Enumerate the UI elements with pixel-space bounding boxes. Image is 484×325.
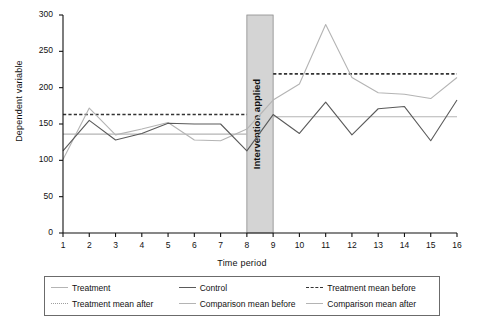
x-tick-label: 2 — [79, 240, 99, 250]
legend-item: Comparison mean after — [306, 299, 434, 309]
legend-item: Treatment mean before — [306, 283, 434, 293]
y-tick-label: 0 — [23, 227, 53, 237]
y-tick-label: 100 — [23, 154, 53, 164]
y-axis-title: Dependent variable — [14, 46, 24, 156]
legend-item: Treatment mean after — [51, 299, 179, 309]
legend-label: Control — [200, 283, 227, 293]
x-tick-label: 7 — [211, 240, 231, 250]
legend-label: Treatment — [72, 283, 110, 293]
y-tick-label: 200 — [23, 82, 53, 92]
y-tick-label: 250 — [23, 45, 53, 55]
legend-label: Treatment mean before — [327, 283, 416, 293]
x-tick-label: 5 — [158, 240, 178, 250]
x-axis-title: Time period — [0, 258, 484, 268]
intervention-band-label: Intervention applied — [251, 79, 262, 169]
x-tick-label: 9 — [263, 240, 283, 250]
x-tick-label: 1 — [53, 240, 73, 250]
x-tick-label: 11 — [316, 240, 336, 250]
x-tick-label: 8 — [237, 240, 257, 250]
x-tick-label: 14 — [394, 240, 414, 250]
y-tick-label: 150 — [23, 118, 53, 128]
legend-item: Comparison mean before — [179, 299, 307, 309]
legend-item: Control — [179, 283, 307, 293]
legend-item: Treatment — [51, 283, 179, 293]
chart-container: Intervention applied Dependent variable … — [0, 0, 484, 325]
x-tick-label: 6 — [184, 240, 204, 250]
x-tick-label: 10 — [289, 240, 309, 250]
x-tick-label: 13 — [368, 240, 388, 250]
legend-label: Treatment mean after — [72, 299, 153, 309]
x-tick-label: 4 — [132, 240, 152, 250]
legend-label: Comparison mean before — [200, 299, 296, 309]
x-tick-label: 15 — [421, 240, 441, 250]
x-tick-label: 3 — [106, 240, 126, 250]
y-tick-label: 50 — [23, 191, 53, 201]
x-tick-label: 16 — [447, 240, 467, 250]
legend-label: Comparison mean after — [327, 299, 416, 309]
chart-legend: TreatmentControlTreatment mean beforeTre… — [44, 276, 440, 316]
x-tick-label: 12 — [342, 240, 362, 250]
y-tick-label: 300 — [23, 9, 53, 19]
